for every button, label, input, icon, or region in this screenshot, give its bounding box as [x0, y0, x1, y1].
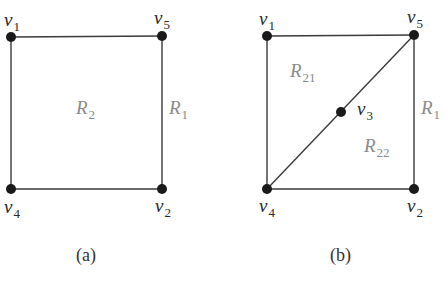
caption-a: (a): [76, 246, 96, 264]
region-label-a-r2: R2: [76, 98, 95, 121]
vertex-label-a-v4: v4: [4, 197, 20, 220]
vertex-label-a-v5: v5: [154, 8, 170, 31]
node-b-v4: [262, 184, 272, 194]
region-label-b-r21: R21: [290, 61, 316, 84]
node-b-v5: [409, 30, 419, 40]
vertex-label-a-v2: v2: [155, 196, 171, 219]
region-label-a-r1: R1: [169, 98, 188, 121]
planar-graph-figure: v1 v5 v4 v2 R2 R1 v1 v5 v3 v4 v2 R21 R22…: [0, 0, 445, 282]
vertex-label-b-v5: v5: [407, 7, 423, 30]
vertex-label-b-v1: v1: [259, 9, 275, 32]
vertex-label-b-v3: v3: [357, 99, 373, 122]
vertex-label-b-v2: v2: [407, 196, 423, 219]
vertex-label-b-v4: v4: [259, 196, 275, 219]
node-a-v4: [6, 184, 16, 194]
edge-b-v1-v5: [267, 35, 414, 36]
node-a-v5: [157, 31, 167, 41]
vertex-label-a-v1: v1: [4, 10, 20, 33]
node-b-v3: [336, 107, 346, 117]
node-a-v2: [157, 184, 167, 194]
node-b-v2: [409, 184, 419, 194]
region-label-b-r1: R1: [421, 98, 440, 121]
caption-b: (b): [330, 246, 351, 264]
region-label-b-r22: R22: [364, 136, 390, 159]
edge-a-v1-v5: [11, 36, 162, 37]
